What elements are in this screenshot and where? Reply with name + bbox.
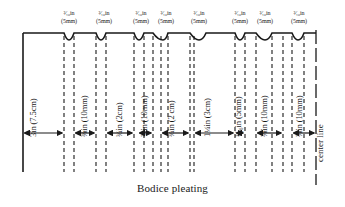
notch-label-line1: ³⁄₁₆in bbox=[63, 10, 74, 16]
diagram-page: ³⁄₁₆in (5mm) ³⁄₁₆in (5mm) ³⁄₁₆in (5mm) ³… bbox=[0, 0, 345, 207]
segment-label-9: ⅜in (10mm) bbox=[295, 96, 304, 138]
notch-label-line1: ³⁄₁₆in bbox=[293, 10, 304, 16]
segment-label-4: ⅜in (10mm) bbox=[140, 96, 149, 138]
notch-label-8: ³⁄₁₆in (5mm) bbox=[280, 10, 318, 25]
notch-label-line1: ³⁄₁₆in bbox=[160, 10, 171, 16]
notch-label-line2: (5mm) bbox=[85, 18, 123, 26]
notch-label-line1: ³⁄₁₆in bbox=[135, 10, 146, 16]
notch-label-line1: ³⁄₁₆in bbox=[234, 10, 245, 16]
notch-label-line1: ³⁄₁₆in bbox=[259, 10, 270, 16]
notch-label-line2: (5mm) bbox=[280, 18, 318, 26]
segment-label-7: ³⁄₁₆in (5mm) bbox=[234, 96, 243, 137]
notch-label-5: ³⁄₁₆in (5mm) bbox=[180, 10, 218, 25]
segment-label-5: ¾in (2 cm) bbox=[167, 100, 176, 137]
segment-label-2: ⅜in (10mm) bbox=[80, 96, 89, 138]
notch-label-line2: (5mm) bbox=[246, 18, 284, 26]
notch-label-7: ³⁄₁₆in (5mm) bbox=[246, 10, 284, 25]
notch-label-line1: ³⁄₁₆in bbox=[193, 10, 204, 16]
segment-label-8: ⅜in (10mm) bbox=[260, 96, 269, 138]
center-line-label: center line bbox=[315, 124, 325, 162]
figure-caption: Bodice pleating bbox=[0, 182, 345, 194]
segment-label-3: ¾in (2cm) bbox=[115, 102, 124, 137]
notch-label-line2: (5mm) bbox=[50, 18, 88, 26]
segment-label-6: 1¼in (3cm) bbox=[203, 98, 212, 137]
notch-label-1: ³⁄₁₆in (5mm) bbox=[50, 10, 88, 25]
notch-label-line1: ³⁄₁₆in bbox=[98, 10, 109, 16]
notch-label-line2: (5mm) bbox=[180, 18, 218, 26]
segment-label-1: 3in (7.5cm) bbox=[29, 98, 38, 137]
notch-label-2: ³⁄₁₆in (5mm) bbox=[85, 10, 123, 25]
